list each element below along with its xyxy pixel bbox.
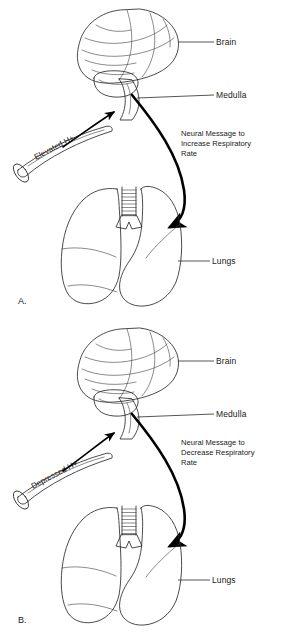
- lung-left-outline: [61, 188, 121, 303]
- panel-letter-a: A.: [18, 296, 27, 306]
- lung-right-outline: [120, 186, 182, 306]
- neural-message-line-1: Neural Message to: [181, 438, 245, 447]
- label-medulla: Medulla: [216, 409, 247, 419]
- medulla-crease: [127, 403, 131, 433]
- sulcus-line: [96, 344, 131, 350]
- stimulus-arrow: [63, 112, 114, 147]
- blood-vessel-illustration: [10, 126, 112, 185]
- sulcus-line: [82, 357, 174, 375]
- vessel-open-end: [10, 488, 31, 511]
- label-brain: Brain: [216, 356, 237, 366]
- lung-fissure: [68, 604, 117, 611]
- neural-message-text: Neural Message to Increase Respiratory R…: [181, 129, 251, 158]
- neural-message-arrow: [132, 95, 185, 227]
- sulcus-line: [142, 332, 155, 396]
- brain-illustration: [77, 9, 178, 120]
- lung-fissure: [146, 224, 180, 258]
- label-brain: Brain: [216, 37, 237, 47]
- neural-message-text: Neural Message to Decrease Respiratory R…: [181, 438, 255, 467]
- sulcus-line: [142, 13, 155, 77]
- trachea-tube: [122, 187, 136, 216]
- medulla-leader-line: [137, 414, 214, 417]
- cerebellum-fold: [99, 80, 134, 84]
- medulla-crease: [127, 84, 131, 114]
- trachea-tube: [122, 506, 136, 535]
- lung-fissure: [68, 285, 117, 292]
- cerebellum-fold: [99, 399, 134, 403]
- sulcus-line: [82, 38, 174, 56]
- sulcus-line: [119, 10, 132, 80]
- lung-fissure: [62, 567, 116, 576]
- figure-panel-a: Brain Medulla Elevated H+ Neural Message…: [0, 0, 285, 319]
- figure-panel-b: Brain Medulla Depressed H+ Neural Messag…: [0, 319, 285, 638]
- sulcus-line: [96, 25, 131, 31]
- label-depressed-h: Depressed H+: [30, 459, 80, 491]
- neural-message-line-2: Increase Respiratory: [181, 139, 251, 148]
- vessel-open-end: [10, 161, 31, 184]
- sulcus-line: [119, 329, 132, 399]
- vessel-body: [18, 126, 113, 177]
- label-lungs: Lungs: [212, 575, 236, 585]
- lung-fissure: [146, 543, 180, 577]
- lung-right-outline: [120, 505, 182, 625]
- lung-left-outline: [61, 507, 121, 622]
- lungs-illustration: [61, 186, 181, 306]
- brain-illustration: [77, 328, 178, 439]
- neural-message-line-3: Rate: [181, 149, 197, 158]
- medulla-leader-line: [137, 95, 214, 98]
- neural-message-arrow: [132, 414, 185, 546]
- panel-letter-b: B.: [18, 615, 27, 625]
- label-medulla: Medulla: [216, 90, 247, 100]
- stimulus-arrow: [63, 433, 114, 471]
- neural-message-line-3: Rate: [181, 458, 197, 467]
- lungs-illustration: [61, 505, 181, 625]
- label-lungs: Lungs: [212, 256, 236, 266]
- vessel-body: [18, 453, 113, 504]
- neural-message-line-2: Decrease Respiratory: [181, 448, 255, 457]
- lung-fissure: [62, 248, 116, 257]
- neural-message-line-1: Neural Message to: [181, 129, 245, 138]
- blood-vessel-illustration: [10, 453, 112, 512]
